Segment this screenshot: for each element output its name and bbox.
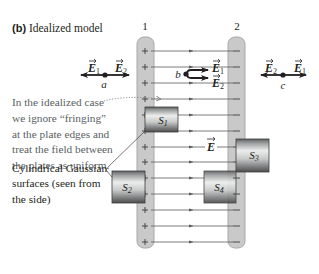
plate-1 xyxy=(137,37,154,248)
point-c: E2 E1 c xyxy=(261,59,306,91)
gaussian-surface-s3: S3 xyxy=(236,139,269,172)
plate-2-label: 2 xyxy=(234,20,240,32)
capacitor-diagram: 1 2 S1 S2 xyxy=(0,0,319,274)
svg-text:c: c xyxy=(281,79,286,91)
svg-text:E2: E2 xyxy=(114,61,127,76)
svg-text:E1: E1 xyxy=(293,61,306,76)
field-lines xyxy=(151,51,233,242)
svg-text:E1: E1 xyxy=(87,61,100,76)
vector-e2-at-b xyxy=(187,74,208,78)
svg-text:E2: E2 xyxy=(264,61,277,76)
leader-line-s2 xyxy=(106,170,112,177)
point-b: b E1 E2 xyxy=(175,59,224,91)
gaussian-surface-s1: S1 xyxy=(145,107,178,132)
svg-text:E: E xyxy=(206,140,215,154)
svg-text:a: a xyxy=(101,78,107,90)
svg-text:b: b xyxy=(175,68,181,80)
field-label: E xyxy=(205,137,217,154)
plate-1-label: 1 xyxy=(142,20,148,32)
gaussian-surface-s2: S2 xyxy=(112,171,145,203)
svg-text:E2: E2 xyxy=(211,76,224,91)
point-a: E1 E2 a xyxy=(81,59,129,90)
svg-text:E1: E1 xyxy=(211,61,224,76)
vector-e1-at-b xyxy=(187,70,208,74)
gaussian-surface-s4: S4 xyxy=(204,171,236,203)
